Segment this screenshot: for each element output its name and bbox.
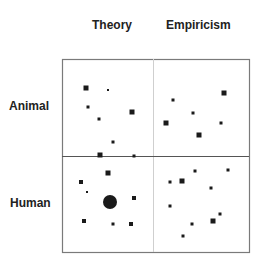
square-marker <box>219 213 222 216</box>
square-marker <box>133 155 136 158</box>
square-marker <box>210 187 213 190</box>
square-marker <box>112 223 115 226</box>
square-marker <box>169 205 172 208</box>
circle-marker <box>103 195 117 209</box>
square-marker <box>84 86 89 91</box>
square-marker <box>211 219 216 224</box>
square-marker <box>227 169 230 172</box>
square-marker <box>112 141 115 144</box>
square-marker <box>197 133 202 138</box>
square-marker <box>182 235 185 238</box>
square-marker <box>129 222 133 226</box>
square-marker <box>86 191 88 193</box>
square-marker <box>87 106 90 109</box>
cell-human-theory <box>79 171 136 227</box>
square-marker <box>132 196 136 200</box>
square-marker <box>98 118 101 121</box>
square-marker <box>169 181 172 184</box>
square-marker <box>192 112 195 115</box>
cell-animal-theory <box>84 86 136 158</box>
cell-human-empiricism <box>169 169 230 238</box>
square-marker <box>130 110 135 115</box>
square-marker <box>79 180 83 184</box>
square-marker <box>172 99 175 102</box>
square-marker <box>220 122 223 125</box>
square-marker <box>107 89 109 91</box>
quadrant-grid <box>0 0 261 261</box>
square-marker <box>106 171 111 176</box>
square-marker <box>194 170 197 173</box>
square-marker <box>82 219 86 223</box>
square-marker <box>222 91 227 96</box>
square-marker <box>180 179 185 184</box>
square-marker <box>191 223 194 226</box>
cell-animal-empiricism <box>164 91 227 138</box>
square-marker <box>164 121 169 126</box>
square-marker <box>98 153 103 158</box>
grid-lines <box>62 59 250 253</box>
